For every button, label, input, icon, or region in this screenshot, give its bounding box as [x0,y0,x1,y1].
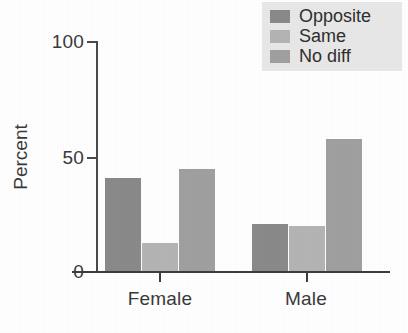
bar-male-opposite [252,224,288,272]
x-axis-line [72,271,390,273]
bar-male-same [289,226,325,272]
legend-swatch-icon-same [270,30,290,43]
legend: Opposite Same No diff [262,2,402,71]
x-group-label-female: Female [100,288,220,310]
legend-label-opposite: Opposite [299,7,371,26]
bar-female-same [142,243,178,272]
x-group-label-male: Male [246,288,366,310]
legend-label-no-diff: No diff [299,47,351,66]
legend-label-same: Same [299,27,346,46]
bar-chart: 100 50 0 Percent Female Male Opposite Sa… [0,0,408,333]
bar-female-opposite [105,178,141,272]
legend-item-same: Same [270,26,396,46]
bar-female-no-diff [179,169,215,273]
legend-swatch-icon-opposite [270,10,290,23]
x-tick-mark-male [306,273,308,282]
legend-item-no-diff: No diff [270,46,396,66]
bar-male-no-diff [326,139,362,272]
legend-swatch-icon-no-diff [270,50,290,63]
x-tick-mark-female [159,273,161,282]
legend-item-opposite: Opposite [270,6,396,26]
